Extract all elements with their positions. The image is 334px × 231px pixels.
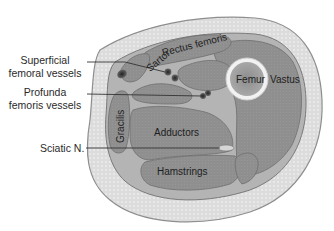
callout-line-1: Superficial <box>5 54 85 67</box>
label-femur: Femur <box>236 74 266 85</box>
label-hamstrings: Hamstrings <box>157 166 208 177</box>
sciatic-nerve <box>218 145 234 151</box>
label-gracilis: Gracilis <box>115 110 126 143</box>
superficial-femoral-vein <box>172 75 179 82</box>
callout-line-2: femoral vessels <box>5 67 85 80</box>
thigh-cross-section-diagram: Sartor Rectus femoris Femur Vastus Graci… <box>0 0 334 231</box>
label-vastus: Vastus <box>270 74 300 85</box>
callout-superficial-femoral-vessels: Superficial femoral vessels <box>5 54 85 80</box>
callout-sciatic-nerve: Sciatic N. <box>40 142 84 155</box>
callout-line-1: Profunda <box>5 86 85 99</box>
superficial-femoral-artery <box>165 69 172 76</box>
callout-line-2: femoris vessels <box>5 99 85 112</box>
label-adductors: Adductors <box>154 127 199 138</box>
profunda-femoris-vein <box>205 90 211 96</box>
callout-profunda-femoris-vessels: Profunda femoris vessels <box>5 86 85 112</box>
